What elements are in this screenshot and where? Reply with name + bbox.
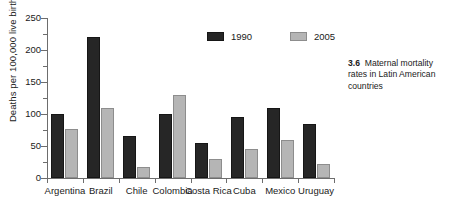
y-tick-label: 100 <box>7 109 41 119</box>
x-tick <box>191 178 192 183</box>
bar-group <box>83 18 119 178</box>
y-tick-label: 0 <box>7 173 41 183</box>
bar-1990-cuba <box>231 117 244 178</box>
bar-1990-brazil <box>87 37 100 178</box>
bar-2005-mexico <box>281 140 294 178</box>
x-tick <box>298 178 299 183</box>
x-tick <box>334 178 335 183</box>
x-axis-category-labels: ArgentinaBrazilChileColombiaCosta RicaCu… <box>0 185 452 219</box>
legend-item-1990: 1990 <box>207 26 252 38</box>
y-tick-label: 150 <box>7 77 41 87</box>
x-tick <box>226 178 227 183</box>
bar-1990-chile <box>123 136 136 178</box>
y-tick-label: 250 <box>7 13 41 23</box>
x-tick-label: Uruguay <box>292 185 340 196</box>
bar-1990-argentina <box>51 114 64 178</box>
figure-maternal-mortality: Deaths per 100,000 live births 050100150… <box>0 0 452 222</box>
x-tick <box>119 178 120 183</box>
bar-1990-colombia <box>159 114 172 178</box>
bar-groups <box>47 18 334 178</box>
x-tick <box>83 178 84 183</box>
x-tick <box>155 178 156 183</box>
bar-group <box>191 18 227 178</box>
x-tick <box>47 178 48 183</box>
bar-2005-costa-rica <box>209 159 222 178</box>
y-tick-label: 50 <box>7 141 41 151</box>
bar-2005-chile <box>137 167 150 178</box>
bar-2005-argentina <box>65 129 78 178</box>
bar-group <box>226 18 262 178</box>
legend-swatch-2005 <box>290 32 307 41</box>
bar-group <box>298 18 334 178</box>
figure-number: 3.6 <box>348 58 360 68</box>
legend-label-2005: 2005 <box>314 31 335 42</box>
bar-1990-costa-rica <box>195 143 208 178</box>
bar-group <box>155 18 191 178</box>
legend-item-2005: 2005 <box>290 26 335 38</box>
bar-2005-colombia <box>173 95 186 178</box>
bar-group <box>119 18 155 178</box>
bar-2005-cuba <box>245 149 258 178</box>
bar-1990-uruguay <box>303 124 316 178</box>
legend-label-1990: 1990 <box>231 31 252 42</box>
bar-1990-mexico <box>267 108 280 178</box>
figure-caption: 3.6 Maternal mortality rates in Latin Am… <box>348 58 448 92</box>
x-tick <box>262 178 263 183</box>
bar-2005-brazil <box>101 108 114 178</box>
legend-swatch-1990 <box>207 32 224 41</box>
bar-group <box>47 18 83 178</box>
bar-group <box>262 18 298 178</box>
y-tick-label: 200 <box>7 45 41 55</box>
bar-2005-uruguay <box>317 164 330 178</box>
